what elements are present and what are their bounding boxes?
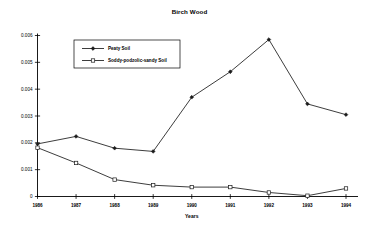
x-axis-tick-label: 1993 (302, 203, 313, 208)
y-axis-tick-label: 0.002 (21, 140, 33, 145)
y-axis-tick-label: 0.004 (21, 87, 33, 92)
data-point-marker (190, 185, 193, 188)
x-axis-tick-label: 1994 (341, 203, 352, 208)
data-point-marker (113, 146, 117, 150)
y-axis-tick-label: 0.001 (21, 167, 33, 172)
data-point-marker (113, 178, 116, 181)
data-point-marker (36, 146, 39, 149)
legend-box (74, 40, 180, 68)
data-point-marker (229, 185, 232, 188)
x-axis-tick-label: 1989 (148, 203, 159, 208)
data-point-marker (151, 184, 154, 187)
y-axis-tick-label: 0.003 (21, 114, 33, 119)
data-point-marker (74, 134, 78, 138)
data-point-marker (74, 161, 77, 164)
chart-series (36, 146, 348, 197)
chart-container: Birch Wood 00.0010.0020.0030.0040.0050.0… (0, 0, 379, 229)
chart-plot-area: 00.0010.0020.0030.0040.0050.006 19861987… (0, 0, 379, 229)
legend-item-label: Peaty Soil (108, 46, 130, 51)
x-axis-title: Years (185, 213, 199, 219)
data-point-marker (267, 191, 270, 194)
legend-item-label: Soddy-podzolic-sandy Soil (108, 58, 167, 63)
data-point-marker (344, 113, 348, 117)
y-axis-tick-label: 0 (30, 194, 33, 199)
y-axis-tick-label: 0.005 (21, 60, 33, 65)
x-axis-tick-label: 1987 (71, 203, 82, 208)
chart-legend: Peaty SoilSoddy-podzolic-sandy Soil (74, 40, 180, 68)
data-point-marker (306, 102, 310, 106)
data-point-marker (344, 187, 347, 190)
x-axis-tick-label: 1990 (187, 203, 198, 208)
x-axis-tick-label: 1988 (110, 203, 121, 208)
x-axis-tick-label: 1991 (225, 203, 236, 208)
data-point-marker (306, 194, 309, 197)
data-point-marker (91, 59, 94, 62)
x-axis-tick-label: 1986 (32, 203, 43, 208)
y-axis-tick-label: 0.006 (21, 33, 33, 38)
x-axis-tick-label: 1992 (264, 203, 275, 208)
